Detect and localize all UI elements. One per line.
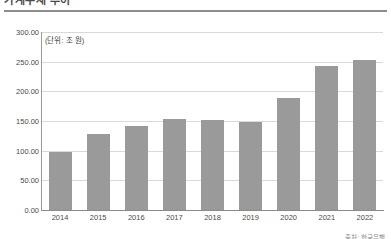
bar-slot xyxy=(193,32,231,210)
x-axis-tick-2017: 2017 xyxy=(155,213,193,222)
y-axis-tick: 250.00 xyxy=(3,57,39,66)
x-axis-tick-2022: 2022 xyxy=(346,213,384,222)
x-axis-tick-labels: 201420152016201720182019202020212022 xyxy=(41,213,384,222)
bar-2017 xyxy=(163,119,186,210)
bar-2016 xyxy=(125,126,148,210)
bar-2019 xyxy=(239,122,262,210)
x-axis-line xyxy=(41,210,384,211)
x-axis-tick-2018: 2018 xyxy=(193,213,231,222)
x-axis-tick-2020: 2020 xyxy=(270,213,308,222)
y-axis-tick: 300.00 xyxy=(3,28,39,37)
bar-slot xyxy=(117,32,155,210)
y-axis-tick-labels: 0.0050.00100.00150.00200.00250.00300.00 xyxy=(0,14,39,239)
x-axis-tick-2021: 2021 xyxy=(308,213,346,222)
y-axis-tick: 0.00 xyxy=(3,206,39,215)
bar-chart: 0.0050.00100.00150.00200.00250.00300.00 … xyxy=(0,14,391,239)
x-axis-tick-2016: 2016 xyxy=(117,213,155,222)
x-axis-tick-2015: 2015 xyxy=(79,213,117,222)
y-axis-tick: 100.00 xyxy=(3,146,39,155)
bar-2015 xyxy=(87,134,110,210)
bar-slot xyxy=(270,32,308,210)
header-divider xyxy=(4,10,387,12)
x-axis-tick-2014: 2014 xyxy=(41,213,79,222)
bar-2020 xyxy=(277,98,300,210)
bar-series xyxy=(41,32,384,210)
y-axis-tick: 150.00 xyxy=(3,117,39,126)
page-title: 가계부채 추이 xyxy=(4,0,71,7)
bar-slot xyxy=(308,32,346,210)
y-axis-tick: 50.00 xyxy=(3,176,39,185)
source-note: 출처: 한국은행 xyxy=(345,232,385,239)
bar-2018 xyxy=(201,120,224,210)
y-axis-tick: 200.00 xyxy=(3,87,39,96)
bar-slot xyxy=(232,32,270,210)
bar-slot xyxy=(41,32,79,210)
x-axis-tick-2019: 2019 xyxy=(232,213,270,222)
bar-slot xyxy=(346,32,384,210)
bar-2022 xyxy=(353,60,376,210)
bar-slot xyxy=(79,32,117,210)
bar-2014 xyxy=(49,152,72,210)
bar-2021 xyxy=(315,66,338,210)
bar-slot xyxy=(155,32,193,210)
